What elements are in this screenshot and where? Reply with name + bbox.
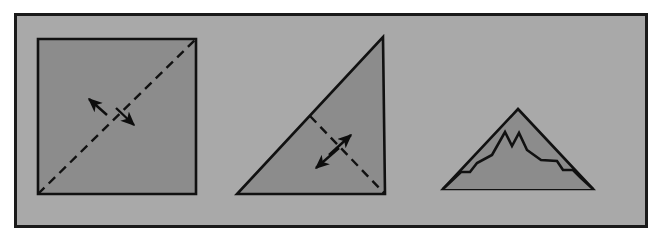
figure-square	[38, 39, 196, 194]
figure-canvas: Lines of symmetry figures	[0, 0, 666, 243]
symmetry-diagram	[0, 0, 666, 243]
